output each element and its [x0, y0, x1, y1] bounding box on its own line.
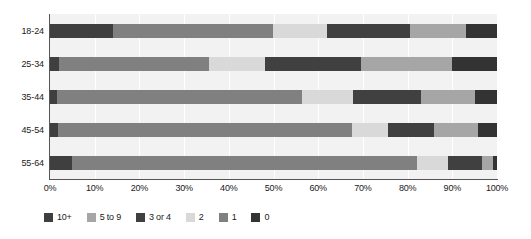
bar-55-64 [50, 156, 497, 170]
legend-item-2[interactable]: 2 [186, 212, 204, 222]
y-axis-label-25-34: 25-34 [0, 57, 44, 71]
bar-segment [478, 123, 497, 137]
bar-segment [265, 57, 361, 71]
x-axis-tick-labels: 0%10%20%30%40%50%60%70%80%90%100% [50, 183, 497, 197]
bar-segment [434, 123, 477, 137]
legend-label: 2 [199, 212, 204, 222]
bar-segment [50, 123, 58, 137]
x-axis-tick-90%: 90% [444, 183, 461, 193]
x-axis-tick-80%: 80% [399, 183, 416, 193]
bar-18-24 [50, 24, 497, 38]
x-axis-tick-0%: 0% [44, 183, 57, 193]
bar-segment [72, 156, 416, 170]
stacked-bar-chart: 18-2425-3435-4445-5455-64 0%10%20%30%40%… [0, 0, 531, 239]
legend-swatch-icon [251, 213, 260, 222]
bar-segment [493, 156, 497, 170]
legend-label: 1 [232, 212, 237, 222]
legend-swatch-icon [44, 213, 53, 222]
bar-segment [353, 90, 421, 104]
bar-segment [50, 57, 59, 71]
legend-swatch-icon [219, 213, 228, 222]
bar-segment [50, 24, 113, 38]
legend-swatch-icon [136, 213, 145, 222]
bar-segment [410, 24, 466, 38]
x-axis-line [49, 179, 498, 180]
legend-item-5-to-9[interactable]: 5 to 9 [87, 212, 121, 222]
bar-segment [448, 156, 482, 170]
x-axis-tick-10%: 10% [86, 183, 103, 193]
x-axis-tick-20%: 20% [131, 183, 148, 193]
x-axis-tick-70%: 70% [354, 183, 371, 193]
gridline [497, 14, 498, 179]
bar-segment [209, 57, 265, 71]
bar-segment [273, 24, 327, 38]
bar-35-44 [50, 90, 497, 104]
bar-segment [452, 57, 497, 71]
bar-45-54 [50, 123, 497, 137]
legend-item-10+[interactable]: 10+ [44, 212, 72, 222]
bar-segment [352, 123, 388, 137]
bar-segment [475, 90, 497, 104]
y-axis-category-labels: 18-2425-3435-4445-5455-64 [0, 14, 44, 179]
bar-segment [113, 24, 274, 38]
y-axis-label-55-64: 55-64 [0, 156, 44, 170]
y-axis-line [49, 14, 50, 180]
x-axis-tick-100%: 100% [486, 183, 508, 193]
bar-segment [59, 57, 209, 71]
chart-legend: 10+5 to 93 or 4210 [44, 210, 284, 224]
legend-label: 3 or 4 [149, 212, 171, 222]
bar-segment [482, 156, 493, 170]
bar-segment [327, 24, 410, 38]
bar-segment [57, 90, 302, 104]
bar-segment [417, 156, 448, 170]
legend-item-1[interactable]: 1 [219, 212, 237, 222]
bar-segment [361, 57, 453, 71]
legend-swatch-icon [186, 213, 195, 222]
legend-label: 0 [264, 212, 269, 222]
legend-label: 10+ [57, 212, 72, 222]
legend-swatch-icon [87, 213, 96, 222]
bar-segment [466, 24, 497, 38]
bar-25-34 [50, 57, 497, 71]
bar-segment [50, 156, 72, 170]
bar-segment [388, 123, 434, 137]
bar-segment [50, 90, 57, 104]
bar-segment [421, 90, 475, 104]
legend-label: 5 to 9 [100, 212, 121, 222]
x-axis-tick-40%: 40% [220, 183, 237, 193]
bar-segment [58, 123, 352, 137]
bar-segment [302, 90, 353, 104]
y-axis-label-35-44: 35-44 [0, 90, 44, 104]
y-axis-label-18-24: 18-24 [0, 24, 44, 38]
legend-item-0[interactable]: 0 [251, 212, 269, 222]
legend-item-3-or-4[interactable]: 3 or 4 [136, 212, 171, 222]
x-axis-tick-60%: 60% [309, 183, 326, 193]
x-axis-tick-30%: 30% [175, 183, 192, 193]
plot-area [50, 14, 497, 179]
x-axis-tick-50%: 50% [265, 183, 282, 193]
y-axis-label-45-54: 45-54 [0, 123, 44, 137]
